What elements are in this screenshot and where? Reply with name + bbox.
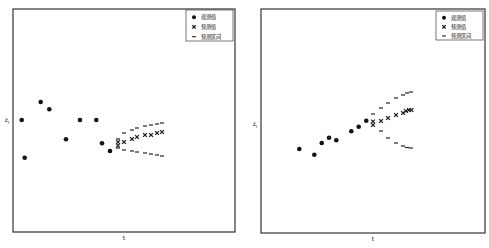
observed-point [297, 147, 302, 152]
x-axis-label: t [123, 234, 126, 241]
legend-label: 观测值 [201, 13, 216, 21]
observed-point [100, 141, 105, 146]
plot-frame [13, 9, 235, 232]
circle-marker-icon [192, 15, 196, 19]
x-axis-label: t [372, 235, 375, 242]
forecast-point [116, 144, 120, 148]
legend: 观测值预测值预测区间 [436, 11, 483, 40]
forecast-point [122, 140, 126, 144]
forecast-point [379, 119, 383, 123]
y-axis-label: zt [253, 120, 258, 129]
observed-point [94, 118, 99, 123]
forecast-point [394, 113, 398, 117]
legend-label: 预测区间 [451, 32, 471, 40]
forecast-point [149, 133, 153, 137]
observed-point [78, 118, 83, 123]
observed-point [47, 107, 52, 112]
right-scatter-plot: ztt观测值预测值预测区间 [253, 9, 485, 242]
observed-point [349, 129, 354, 134]
circle-marker-icon [442, 16, 446, 20]
y-axis-label: zt [5, 116, 10, 125]
observed-point [38, 100, 43, 105]
forecast-point [386, 116, 390, 120]
forecast-point [155, 131, 159, 135]
forecast-point [371, 123, 375, 127]
observed-point [312, 152, 317, 157]
forecast-point [160, 130, 164, 134]
chart-figure: ztt观测值预测值预测区间 ztt观测值预测值预测区间 [0, 0, 489, 248]
observed-point [64, 137, 69, 142]
observed-point [319, 141, 324, 146]
observed-point [22, 155, 27, 160]
observed-point [19, 118, 24, 123]
observed-point [108, 149, 113, 154]
forecast-point [143, 133, 147, 137]
observed-point [334, 138, 339, 143]
forecast-point [130, 137, 134, 141]
left-scatter-plot: ztt观测值预测值预测区间 [5, 9, 235, 241]
chart-canvas: ztt观测值预测值预测区间 ztt观测值预测值预测区间 [0, 0, 489, 248]
legend-label: 预测值 [201, 23, 216, 31]
forecast-point [135, 135, 139, 139]
legend-label: 预测值 [451, 23, 466, 31]
forecast-point [410, 108, 414, 112]
observed-point [364, 118, 369, 123]
legend-label: 预测区间 [201, 33, 221, 41]
legend-label: 观测值 [451, 14, 466, 22]
observed-point [327, 135, 332, 140]
observed-point [356, 124, 361, 129]
legend: 观测值预测值预测区间 [186, 10, 233, 41]
